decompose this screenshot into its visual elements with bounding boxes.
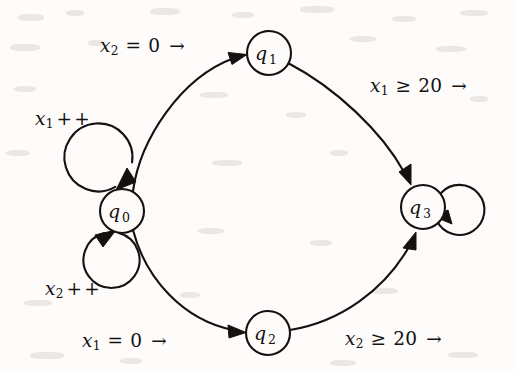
- edge-label-q0-q1: x2 = 0 →: [100, 37, 185, 57]
- edge-label-q0-q2: x1 = 0 →: [82, 332, 167, 352]
- state-sub-q0: 0: [122, 210, 130, 225]
- state-node-q3[interactable]: q 3: [401, 185, 445, 229]
- transition-q0-to-q2: [133, 230, 246, 338]
- edge-path-q2-q3: [290, 245, 410, 330]
- transition-q0-to-q1: [133, 53, 247, 192]
- state-label-q2: q: [254, 322, 266, 344]
- state-node-q2[interactable]: q 2: [246, 311, 290, 355]
- state-machine-graph: q 0 q 1 q 2 q 3: [0, 0, 516, 371]
- edge-label-q0-self-x2: x2 + +: [45, 280, 101, 300]
- arrowhead-q0-q2: [228, 325, 246, 338]
- state-sub-q3: 3: [423, 206, 431, 221]
- edge-path-q0-q2: [133, 230, 233, 330]
- edge-label-q1-q3: x1 ≥ 20 →: [370, 77, 467, 97]
- state-node-q1[interactable]: q 1: [247, 31, 291, 75]
- state-label-q0: q: [108, 200, 120, 222]
- state-node-q0[interactable]: q 0: [100, 189, 144, 233]
- arrowhead-q0-q1: [228, 53, 247, 65]
- arrowhead-q0-x2: [95, 230, 116, 247]
- state-sub-q1: 1: [269, 52, 277, 67]
- state-label-q1: q: [255, 42, 267, 64]
- edge-label-q2-q3: x2 ≥ 20 →: [345, 330, 442, 350]
- self-loop-q0-x1-increment: [60, 119, 137, 196]
- transition-q2-to-q3: [290, 232, 416, 330]
- arrowhead-q2-q3: [403, 232, 416, 250]
- state-sub-q2: 2: [268, 332, 276, 347]
- edge-label-q0-self-x1: x1 + +: [35, 110, 91, 130]
- state-label-q3: q: [409, 196, 421, 218]
- edge-path-q0-q1: [133, 58, 234, 191]
- diagram-canvas: q 0 q 1 q 2 q 3 x2 = 0 → x1 + + x1 ≥ 20 …: [0, 0, 516, 371]
